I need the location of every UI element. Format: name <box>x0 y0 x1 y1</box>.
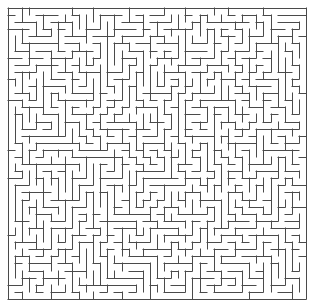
maze-grid <box>0 0 315 304</box>
maze-figure: Maze <box>0 0 315 304</box>
